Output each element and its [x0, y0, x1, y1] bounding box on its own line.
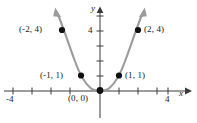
- plot-canvas: [0, 0, 197, 123]
- data-point-1-1: [116, 72, 122, 78]
- y-axis: [97, 7, 104, 119]
- data-point-neg1-1: [78, 72, 84, 78]
- point-label-1-1: (1, 1): [125, 71, 145, 80]
- x-axis-label: x: [179, 89, 183, 98]
- data-point-neg2-4: [59, 27, 65, 33]
- point-label-neg1-1: (-1, 1): [40, 71, 63, 80]
- parabola-graph-figure: y x -4 4 4 (-2, 4) (-1, 1) (0, 0) (1, 1)…: [0, 0, 197, 123]
- data-point-2-4: [135, 27, 141, 33]
- point-label-origin: (0, 0): [68, 94, 88, 103]
- point-label-2-4: (2, 4): [144, 25, 164, 34]
- y-axis-label: y: [91, 4, 95, 13]
- y-tick-label-4: 4: [88, 26, 93, 35]
- point-label-neg2-4: (-2, 4): [19, 25, 42, 34]
- data-point-origin: [97, 87, 104, 94]
- x-tick-label-4: 4: [165, 95, 170, 104]
- x-tick-label-minus-4: -4: [6, 95, 14, 104]
